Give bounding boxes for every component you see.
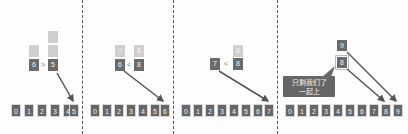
- merge-sort-diagram: 6 > 5 0 1 2 3 4 5 7 8 6 < 8 0 1 2 3 4 5 …: [0, 0, 408, 134]
- panel3-arrow-icon: [219, 71, 268, 101]
- arrows-layer: [0, 0, 408, 134]
- speech-bubble-tail-icon: [322, 66, 335, 77]
- panel2-arrow-icon: [124, 71, 163, 101]
- panel1-arrow-icon: [57, 73, 73, 101]
- panel4-arrow-top-icon: [347, 52, 396, 101]
- panel4-arrow-bottom-icon: [347, 69, 384, 101]
